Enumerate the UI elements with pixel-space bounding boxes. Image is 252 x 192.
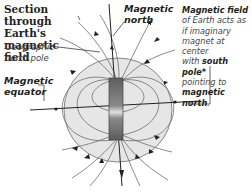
description-line: of Earth acts as <box>182 15 252 25</box>
magnetic-field-description: Magnetic field of Earth acts as if imagi… <box>182 5 252 108</box>
description-line: if imaginary <box>182 26 252 36</box>
magnetic-field-diagram: Section through Earth's magnetic field G… <box>0 0 252 192</box>
title-line: Section through <box>4 3 94 27</box>
imaginary-magnet <box>109 78 123 140</box>
description-line: magnet at center <box>182 36 252 57</box>
label-line: north <box>124 14 173 25</box>
description-line: pointing to <box>182 77 252 87</box>
magnetic-equator-label: Magnetic equator <box>4 75 53 97</box>
magnetic-north-emphasis: magnetic north <box>182 87 225 107</box>
description-heading: Magnetic field <box>182 5 248 15</box>
description-text: with <box>182 56 202 66</box>
label-line: equator <box>4 86 53 97</box>
label-line: Geographic <box>5 42 54 53</box>
magnetic-north-label: Magnetic north <box>124 3 173 25</box>
label-line: Magnetic <box>4 75 53 86</box>
geographic-north-pole-label: Geographic north pole <box>5 42 54 64</box>
description-text: . <box>207 98 210 108</box>
label-line: north pole <box>5 53 54 64</box>
label-line: Magnetic <box>124 3 173 14</box>
